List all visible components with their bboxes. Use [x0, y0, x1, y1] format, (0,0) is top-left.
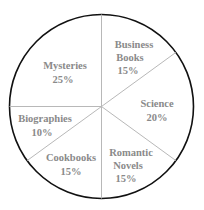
label-romantic-line1: Romantic: [109, 147, 153, 158]
label-business-line2: Books: [116, 52, 143, 63]
label-business-line1: Business: [115, 39, 154, 50]
label-biographies-percent: 10%: [32, 127, 53, 138]
label-mysteries-line1: Mysteries: [43, 60, 87, 71]
label-science-percent: 20%: [147, 112, 168, 123]
label-romantic-percent: 15%: [116, 173, 137, 184]
label-biographies-line1: Biographies: [18, 113, 72, 124]
label-business-percent: 15%: [118, 65, 139, 76]
label-romantic-line2: Novels: [113, 160, 143, 171]
label-cookbooks-line1: Cookbooks: [46, 152, 96, 163]
label-mysteries-percent: 25%: [53, 74, 74, 85]
label-cookbooks-percent: 15%: [61, 166, 82, 177]
label-science-line1: Science: [140, 98, 174, 109]
pie-chart: Business Books 15% Science 20% Romantic …: [0, 0, 204, 210]
